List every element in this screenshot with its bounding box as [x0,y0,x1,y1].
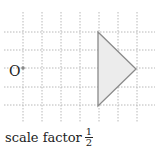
scale-factor-caption: scale factor 1 2 [5,127,93,148]
shaded-triangle [98,32,136,106]
fraction: 1 2 [85,127,93,148]
center-label: O [9,63,20,79]
center-point-o [21,66,25,70]
caption-text: scale factor [5,130,82,145]
fraction-denominator: 2 [86,138,92,148]
